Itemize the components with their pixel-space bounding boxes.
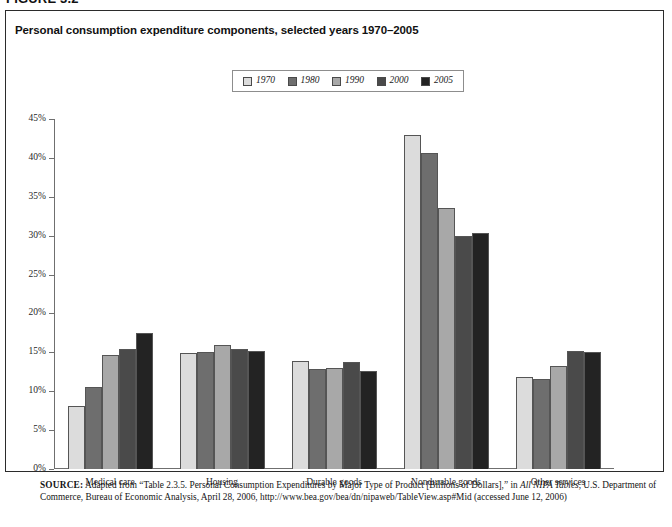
- y-axis-tick-label: 5%: [33, 424, 46, 434]
- source-note: SOURCE: Adapted from “Table 2.3.5. Perso…: [40, 479, 662, 503]
- y-axis-tick-label: 40%: [29, 152, 46, 162]
- chart-plot-wrapper: 0%5%10%15%20%25%30%35%40%45% Medical car…: [6, 11, 665, 473]
- bar-1980-other-services: [533, 379, 550, 469]
- bar-set: [68, 119, 153, 469]
- bar-2000-housing: [231, 349, 248, 469]
- bar-2005-other-services: [584, 352, 601, 469]
- y-axis-tick-label: 35%: [29, 191, 46, 201]
- bar-1980-medical-care: [85, 387, 102, 469]
- y-axis-tick-label: 0%: [33, 463, 46, 473]
- bar-group: Durable goods: [278, 119, 390, 469]
- bar-1970-nondurable-goods: [404, 135, 421, 469]
- bar-set: [516, 119, 601, 469]
- bar-2005-durable-goods: [360, 371, 377, 469]
- bar-set: [180, 119, 265, 469]
- bar-group: Nondurable goods: [390, 119, 502, 469]
- source-note-publication: All NIPA Tables: [520, 480, 579, 490]
- bar-1990-housing: [214, 345, 231, 469]
- bar-group: Other services: [502, 119, 614, 469]
- bar-1980-durable-goods: [309, 369, 326, 469]
- bar-set: [292, 119, 377, 469]
- y-axis-tick-label: 10%: [29, 385, 46, 395]
- bar-2005-housing: [248, 351, 265, 469]
- bar-2000-other-services: [567, 351, 584, 469]
- source-note-text-a: Adapted from “Table 2.3.5. Personal Cons…: [83, 480, 520, 490]
- bar-2005-nondurable-goods: [472, 233, 489, 469]
- bar-1990-medical-care: [102, 355, 119, 469]
- bar-1990-durable-goods: [326, 368, 343, 469]
- bar-1970-medical-care: [68, 406, 85, 469]
- bar-1980-nondurable-goods: [421, 153, 438, 469]
- bar-group: Housing: [166, 119, 278, 469]
- bar-2000-durable-goods: [343, 362, 360, 469]
- bar-1980-housing: [197, 352, 214, 469]
- bar-2005-medical-care: [136, 333, 153, 469]
- bar-1990-nondurable-goods: [438, 208, 455, 469]
- source-note-prefix: SOURCE:: [40, 480, 83, 490]
- y-axis-tick-label: 30%: [29, 230, 46, 240]
- y-axis-tick-label: 15%: [29, 346, 46, 356]
- bar-1970-housing: [180, 353, 197, 469]
- y-axis-tick: 0%: [49, 469, 54, 470]
- y-axis-tick-label: 25%: [29, 269, 46, 279]
- figure-number-label: FIGURE 3.2: [6, 0, 79, 6]
- bar-1990-other-services: [550, 366, 567, 469]
- figure-panel: Personal consumption expenditure compone…: [5, 10, 664, 472]
- bar-groups: Medical careHousingDurable goodsNondurab…: [54, 119, 614, 469]
- bar-1970-other-services: [516, 377, 533, 469]
- bar-2000-nondurable-goods: [455, 236, 472, 469]
- y-axis-tick-label: 45%: [29, 113, 46, 123]
- y-axis-tick-label: 20%: [29, 307, 46, 317]
- chart-axes: 0%5%10%15%20%25%30%35%40%45% Medical car…: [54, 119, 614, 469]
- bar-1970-durable-goods: [292, 361, 309, 469]
- bar-set: [404, 119, 489, 469]
- bar-group: Medical care: [54, 119, 166, 469]
- bar-2000-medical-care: [119, 349, 136, 469]
